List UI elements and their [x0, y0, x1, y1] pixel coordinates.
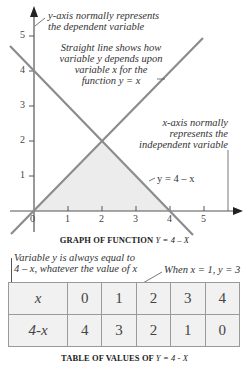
- table-row: x 0 1 2 3 4: [9, 283, 240, 315]
- table-cell: 2: [136, 283, 170, 315]
- table-cell: 0: [68, 283, 102, 315]
- table-cell: 1: [171, 315, 205, 347]
- table-cell: 4: [205, 283, 239, 315]
- table-cell: 3: [171, 283, 205, 315]
- table-cell: 3: [102, 315, 136, 347]
- table-caption: TABLE OF VALUES OF Y = 4 - X: [0, 353, 249, 363]
- table-row: 4-x 4 3 2 1 0: [9, 315, 240, 347]
- row-header: x: [9, 283, 68, 315]
- table-cell: 1: [102, 283, 136, 315]
- table-cell: 2: [136, 315, 170, 347]
- values-table: x 0 1 2 3 4 4-x 4 3 2 1 0: [8, 282, 240, 347]
- table-cell: 0: [205, 315, 239, 347]
- table-cell: 4: [68, 315, 102, 347]
- row-header: 4-x: [9, 315, 68, 347]
